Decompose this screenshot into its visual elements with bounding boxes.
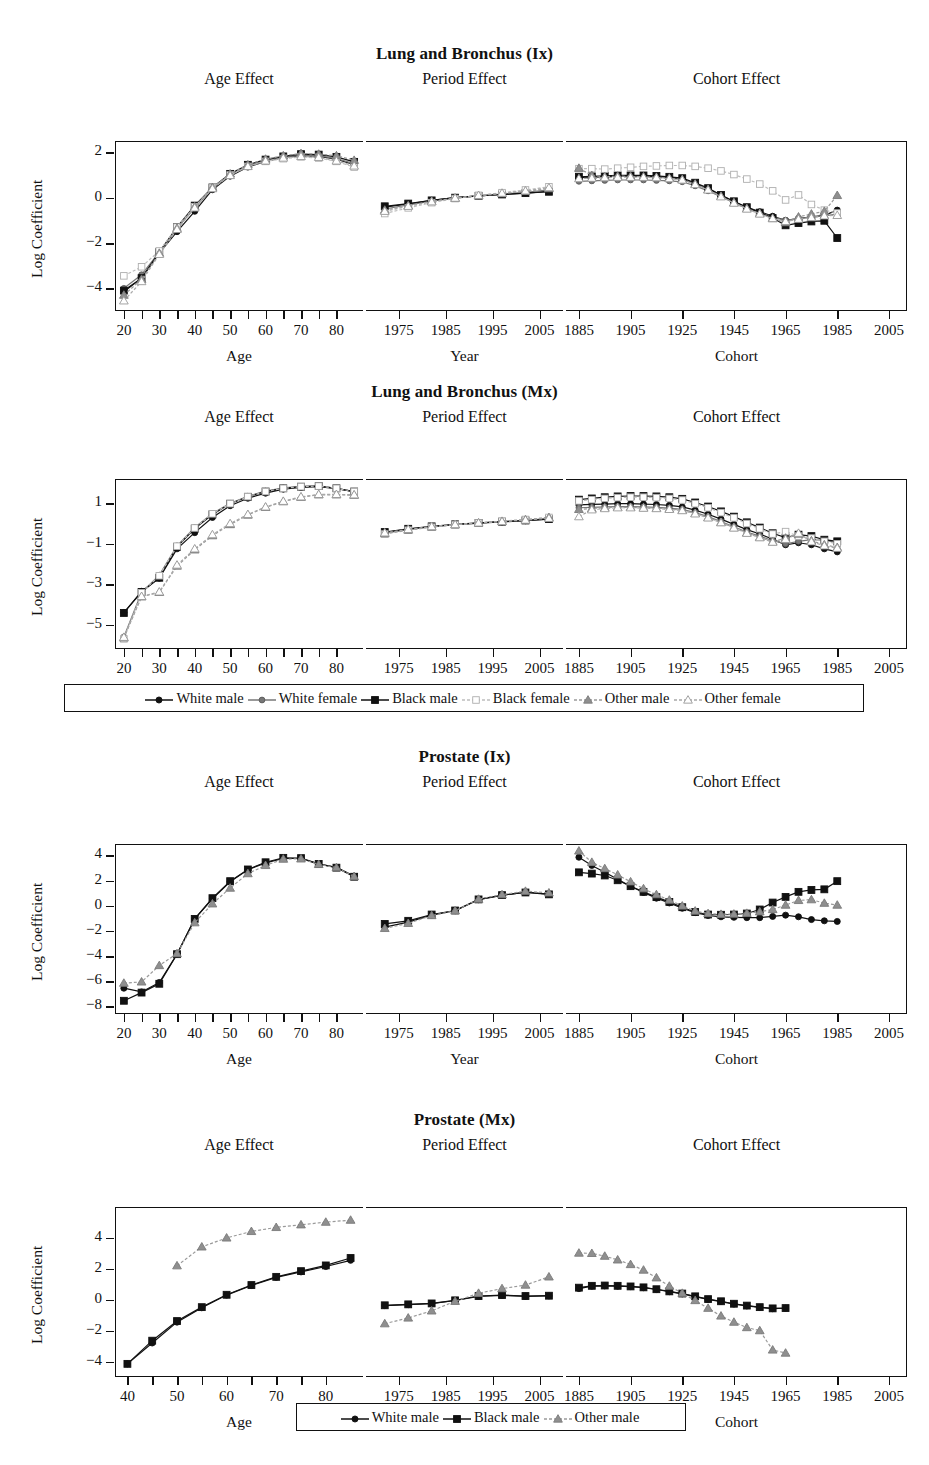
- legend-male_only: White maleBlack maleOther male: [296, 1403, 686, 1431]
- x-tick-mark: [579, 1377, 581, 1385]
- x-tick-mark-minor: [142, 1014, 144, 1022]
- x-tick-mark: [579, 649, 581, 657]
- legend-item[interactable]: Black male: [360, 690, 461, 707]
- axis-box-0: [115, 844, 363, 1014]
- axis-box-2: [566, 1207, 907, 1377]
- x-tick-mark: [837, 1014, 839, 1022]
- x-tick-mark-minor: [319, 1014, 321, 1022]
- x-tick-mark: [124, 1014, 126, 1022]
- effect-title-1: Period Effect: [366, 70, 563, 88]
- legend-item[interactable]: Other male: [573, 690, 673, 707]
- legend-marker-icon: [442, 1411, 472, 1423]
- x-tick-mark-minor: [212, 311, 214, 319]
- x-tick-mark: [301, 649, 303, 657]
- y-tick-label: 2: [58, 142, 102, 159]
- y-tick-label: −3: [58, 574, 102, 591]
- x-tick-label: 80: [306, 660, 366, 677]
- x-tick-mark: [266, 1014, 268, 1022]
- x-tick-mark-minor: [177, 311, 179, 319]
- x-tick-mark: [682, 649, 684, 657]
- x-tick-mark: [276, 1377, 278, 1385]
- chart-title: Prostate (Mx): [0, 1110, 929, 1130]
- legend-label: Black male: [472, 1409, 543, 1426]
- plot-region: Log Coefficient420−2−44050607080Age19751…: [0, 1160, 929, 1430]
- legend-marker-icon: [340, 1411, 370, 1423]
- x-tick-mark-minor: [283, 311, 285, 319]
- legend-item[interactable]: White male: [144, 690, 246, 707]
- x-axis-label-0: Age: [115, 347, 363, 365]
- x-tick-mark: [540, 649, 542, 657]
- x-tick-mark: [786, 311, 788, 319]
- x-tick-mark: [889, 649, 891, 657]
- x-tick-mark: [195, 311, 197, 319]
- x-tick-mark: [399, 649, 401, 657]
- legend-marker-icon: [360, 692, 390, 704]
- y-tick-label: 2: [58, 871, 102, 888]
- x-tick-mark: [837, 1377, 839, 1385]
- x-tick-mark: [631, 1014, 633, 1022]
- y-tick-mark: [106, 625, 114, 627]
- x-tick-mark: [195, 649, 197, 657]
- x-tick-mark: [124, 649, 126, 657]
- x-tick-mark: [446, 649, 448, 657]
- y-tick-mark: [106, 152, 114, 154]
- effect-title-2: Cohort Effect: [566, 1136, 907, 1154]
- y-tick-mark: [106, 1006, 114, 1008]
- x-tick-mark-minor: [177, 1014, 179, 1022]
- axis-box-2: [566, 844, 907, 1014]
- y-tick-mark: [106, 503, 114, 505]
- x-tick-mark: [301, 311, 303, 319]
- x-tick-mark: [540, 1377, 542, 1385]
- legend-item[interactable]: White male: [340, 1409, 442, 1426]
- legend-label: Black male: [390, 690, 461, 707]
- chart-group-0: Lung and Bronchus (Ix)Age EffectPeriod E…: [0, 44, 929, 374]
- effect-titles: Age EffectPeriod EffectCohort Effect: [0, 406, 929, 432]
- effect-title-1: Period Effect: [366, 408, 563, 426]
- x-tick-mark: [446, 1377, 448, 1385]
- x-tick-mark: [159, 311, 161, 319]
- x-tick-mark: [336, 649, 338, 657]
- legend-item[interactable]: Other female: [673, 690, 784, 707]
- x-tick-mark: [786, 649, 788, 657]
- effect-title-2: Cohort Effect: [566, 408, 907, 426]
- chart-title: Prostate (Ix): [0, 747, 929, 767]
- x-tick-mark-minor: [283, 1014, 285, 1022]
- y-tick-label: 0: [58, 1290, 102, 1307]
- effect-titles: Age EffectPeriod EffectCohort Effect: [0, 771, 929, 797]
- x-tick-mark-minor: [248, 1014, 250, 1022]
- legend-label: Other male: [573, 1409, 643, 1426]
- x-tick-mark-minor: [142, 649, 144, 657]
- chart-title: Lung and Bronchus (Ix): [0, 44, 929, 64]
- y-tick-mark: [106, 1269, 114, 1271]
- y-tick-label: −4: [58, 278, 102, 295]
- y-axis-label: Log Coefficient: [28, 1246, 46, 1344]
- x-tick-mark-minor: [177, 649, 179, 657]
- y-tick-mark: [106, 1362, 114, 1364]
- y-tick-label: −2: [58, 1321, 102, 1338]
- x-tick-mark: [682, 1377, 684, 1385]
- chart-group-3: Prostate (Mx)Age EffectPeriod EffectCoho…: [0, 1110, 929, 1410]
- legend-marker-icon: [461, 692, 491, 704]
- legend-item[interactable]: White female: [247, 690, 361, 707]
- x-tick-mark: [493, 311, 495, 319]
- x-tick-mark: [682, 1014, 684, 1022]
- x-tick-mark-minor: [319, 311, 321, 319]
- x-tick-mark: [786, 1014, 788, 1022]
- y-axis-label: Log Coefficient: [28, 180, 46, 278]
- y-tick-label: 4: [58, 845, 102, 862]
- y-tick-label: 1: [58, 493, 102, 510]
- x-tick-mark: [159, 649, 161, 657]
- legend-marker-icon: [543, 1411, 573, 1423]
- y-tick-label: −5: [58, 615, 102, 632]
- x-tick-mark: [159, 1014, 161, 1022]
- axis-box-1: [366, 141, 563, 311]
- figure-root: Lung and Bronchus (Ix)Age EffectPeriod E…: [0, 0, 929, 1465]
- legend-item[interactable]: Black male: [442, 1409, 543, 1426]
- x-tick-mark: [230, 1014, 232, 1022]
- x-tick-mark-minor: [301, 1377, 303, 1385]
- y-tick-mark: [106, 544, 114, 546]
- effect-title-0: Age Effect: [115, 408, 363, 426]
- legend-item[interactable]: Black female: [461, 690, 573, 707]
- legend-item[interactable]: Other male: [543, 1409, 643, 1426]
- y-axis-label: Log Coefficient: [28, 518, 46, 616]
